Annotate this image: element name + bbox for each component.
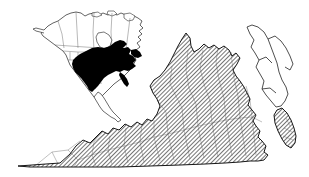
- north-america-inset: [0, 0, 309, 177]
- distribution-map-figure: Virginia North America central and easte…: [0, 0, 309, 177]
